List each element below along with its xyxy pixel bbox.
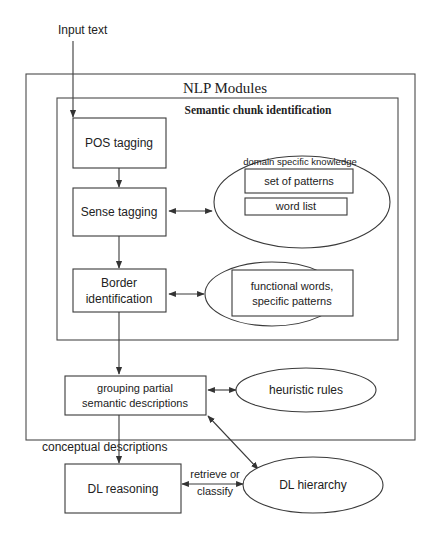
- classify-label: classify: [197, 485, 234, 497]
- nlp-modules-title: NLP Modules: [183, 80, 267, 96]
- grouping-node: grouping partial semantic descriptions: [65, 376, 206, 415]
- functional-line2: specific patterns: [252, 295, 332, 307]
- dl-reasoning-node: DL reasoning: [65, 464, 181, 513]
- retrieve-label: retrieve or: [190, 468, 240, 480]
- heuristic-rules-ellipse: heuristic rules: [236, 368, 376, 412]
- word-list-label: word list: [275, 200, 316, 212]
- domain-knowledge-ellipse: domain specific knowledge set of pattern…: [214, 156, 390, 248]
- border-label-line1: Border: [101, 276, 137, 290]
- grouping-dl-hierarchy-arrow: [208, 416, 258, 469]
- functional-words-ellipse: functional words, specific patterns: [205, 262, 353, 326]
- functional-words-box: [232, 270, 353, 316]
- pos-tagging-label: POS tagging: [85, 136, 153, 150]
- nlp-architecture-diagram: Input text NLP Modules Semantic chunk id…: [0, 0, 438, 542]
- border-label-line2: identification: [86, 292, 153, 306]
- functional-line1: functional words,: [251, 280, 334, 292]
- dl-reasoning-label: DL reasoning: [88, 482, 159, 496]
- input-text-label: Input text: [58, 23, 108, 37]
- sense-tagging-node: Sense tagging: [73, 188, 166, 236]
- set-of-patterns-label: set of patterns: [264, 175, 334, 187]
- grouping-line2: semantic descriptions: [82, 397, 188, 409]
- pos-tagging-node: POS tagging: [73, 118, 166, 168]
- grouping-line1: grouping partial: [97, 382, 173, 394]
- border-identification-node: Border identification: [73, 269, 166, 312]
- sense-tagging-label: Sense tagging: [81, 205, 158, 219]
- semantic-chunk-title: Semantic chunk identification: [185, 104, 333, 116]
- heuristic-rules-label: heuristic rules: [269, 383, 343, 397]
- conceptual-descriptions-label: conceptual descriptions: [42, 440, 167, 454]
- domain-knowledge-title: domain specific knowledge: [243, 156, 357, 167]
- dl-hierarchy-label: DL hierarchy: [279, 478, 347, 492]
- dl-hierarchy-ellipse: DL hierarchy: [243, 457, 383, 513]
